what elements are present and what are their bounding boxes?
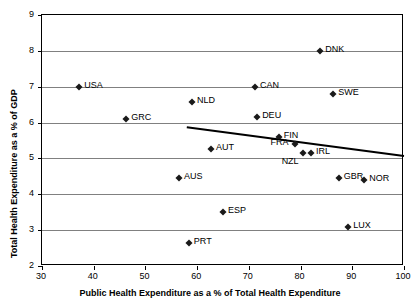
x-tick [145,266,146,270]
y-tick-label: 6 [0,118,34,127]
data-point-label: SWE [338,88,359,97]
gridline-y [42,194,402,195]
x-tick-label: 50 [129,272,159,281]
data-point-label: GBR [344,172,364,181]
plot-area [41,14,403,265]
x-tick-label: 40 [78,272,108,281]
x-tick [352,266,353,270]
data-point-label: DNK [325,45,344,54]
data-point-label: GRC [131,113,151,122]
data-point-label: NZL [282,157,299,166]
data-point-label: NLD [197,96,215,105]
y-tick-label: 7 [0,82,34,91]
x-tick-label: 100 [388,272,418,281]
chart-figure: Total Health Expenditure as a % of GDP P… [0,0,420,305]
x-tick-label: 70 [233,272,263,281]
y-tick-label: 2 [0,261,34,270]
y-tick [38,15,42,16]
y-tick [38,230,42,231]
y-tick [38,123,42,124]
x-tick [249,266,250,270]
data-point-label: USA [84,81,103,90]
gridline-y [42,158,402,159]
x-axis-title: Public Health Expenditure as a % of Tota… [0,288,420,298]
data-point-label: IRL [316,147,330,156]
data-point-label: PRT [194,237,212,246]
data-point-label: ESP [228,206,246,215]
y-tick [38,51,42,52]
gridline-y [42,51,402,52]
y-tick [38,158,42,159]
data-point-label: FRA [270,138,288,147]
data-point-label: NOR [369,174,389,183]
y-tick [38,194,42,195]
x-tick [42,266,43,270]
x-tick-label: 30 [26,272,56,281]
data-point-label: AUS [184,172,203,181]
y-tick-label: 4 [0,189,34,198]
y-tick-label: 5 [0,153,34,162]
x-tick-label: 60 [181,272,211,281]
y-tick-label: 3 [0,225,34,234]
data-point-label: DEU [262,111,281,120]
x-tick [404,266,405,270]
x-tick-label: 90 [336,272,366,281]
gridline-y [42,123,402,124]
y-tick-label: 9 [0,10,34,19]
x-tick [197,266,198,270]
y-tick [38,87,42,88]
x-tick [94,266,95,270]
x-tick [301,266,302,270]
y-tick-label: 8 [0,46,34,55]
x-tick-label: 80 [285,272,315,281]
data-point-label: CAN [260,81,279,90]
data-point-label: AUT [216,143,234,152]
data-point-label: LUX [353,221,371,230]
